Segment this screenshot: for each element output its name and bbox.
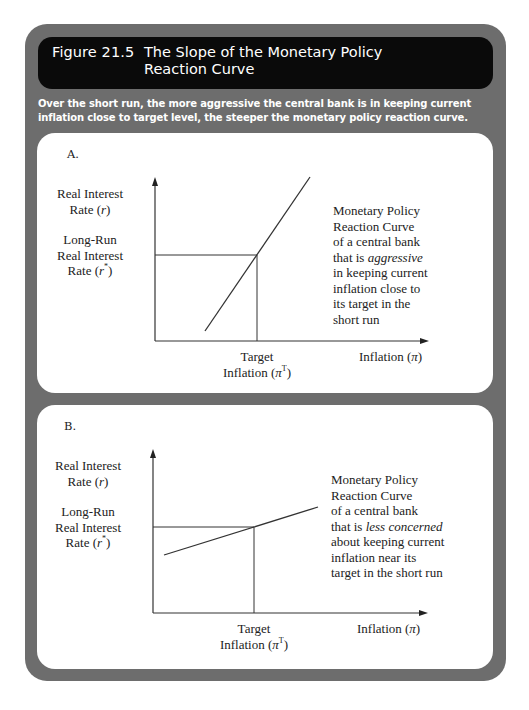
x-axis-arrow-icon — [419, 610, 428, 616]
figure-caption: Over the short run, the more aggressive … — [38, 97, 498, 125]
caption-line: Over the short run, the more aggressive … — [38, 97, 498, 111]
figure-title: The Slope of the Monetary Policy Reactio… — [144, 44, 444, 78]
x-ref-label: Target Inflation (πT) — [204, 621, 304, 652]
x-ref-label: Target Inflation (πT) — [207, 349, 307, 380]
figure-title-line: Reaction Curve — [144, 61, 444, 78]
y-axis-label: Real Interest Rate (r) — [35, 186, 145, 217]
figure-title-line: The Slope of the Monetary Policy — [144, 44, 444, 61]
y-ref-label: Long-Run Real Interest Rate (r*) — [35, 232, 145, 279]
caption-line: inflation close to target level, the ste… — [38, 111, 498, 125]
panel-a: A. Real Interest Rate (r) Long-Run Real … — [37, 133, 493, 393]
figure-number: Figure 21.5 — [52, 44, 134, 60]
y-axis-label: Real Interest Rate (r) — [33, 458, 143, 489]
curve-annotation: Monetary Policy Reaction Curve of a cent… — [333, 203, 428, 327]
x-axis-label: Inflation (π) — [359, 349, 422, 365]
y-ref-label: Long-Run Real Interest Rate (r*) — [33, 504, 143, 551]
y-axis-arrow-icon — [150, 449, 156, 458]
x-axis-arrow-icon — [420, 338, 429, 344]
x-axis-label: Inflation (π) — [357, 621, 420, 637]
panel-b: B. Real Interest Rate (r) Long-Run Real … — [37, 405, 493, 669]
figure-header: Figure 21.5 The Slope of the Monetary Po… — [38, 37, 493, 89]
curve-annotation: Monetary Policy Reaction Curve of a cent… — [331, 472, 444, 581]
y-axis-arrow-icon — [152, 177, 158, 186]
mp-curve-flat — [164, 507, 318, 555]
